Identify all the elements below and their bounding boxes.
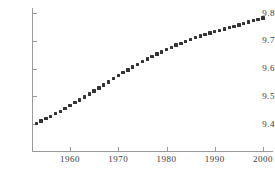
data-point — [73, 101, 76, 104]
data-point — [247, 20, 250, 23]
y-tick-mark — [33, 41, 37, 42]
data-point — [121, 71, 124, 74]
data-point — [223, 27, 226, 30]
data-point — [131, 65, 134, 68]
data-point — [102, 83, 105, 86]
data-point — [112, 77, 115, 80]
data-point — [261, 16, 264, 19]
x-tick-mark — [167, 147, 168, 151]
y-tick-mark — [33, 69, 37, 70]
data-point — [44, 117, 47, 120]
x-tick-label: 1970 — [98, 155, 138, 164]
data-point — [242, 22, 245, 25]
x-tick-label: 1980 — [147, 155, 187, 164]
x-tick-label: 1960 — [50, 155, 90, 164]
data-point — [92, 89, 95, 92]
data-point — [218, 29, 221, 32]
data-point — [194, 36, 197, 39]
data-point — [141, 60, 144, 63]
data-point — [174, 43, 177, 46]
x-tick-mark — [263, 147, 264, 151]
data-point — [155, 52, 158, 55]
data-point — [160, 50, 163, 53]
data-point — [146, 57, 149, 60]
x-tick-label: 1990 — [195, 155, 235, 164]
data-point — [88, 92, 91, 95]
y-tick-label: 9.5 — [247, 92, 275, 101]
data-point — [68, 104, 71, 107]
data-point — [136, 63, 139, 66]
data-point — [199, 34, 202, 37]
data-point — [179, 42, 182, 45]
x-axis-line — [32, 151, 273, 152]
data-point — [59, 110, 62, 113]
data-point — [228, 26, 231, 29]
x-tick-label: 2000 — [243, 155, 275, 164]
y-tick-label: 9.6 — [247, 64, 275, 73]
data-point — [189, 38, 192, 41]
data-point — [54, 112, 57, 115]
x-tick-mark — [118, 147, 119, 151]
data-point — [256, 18, 259, 21]
y-tick-mark — [33, 96, 37, 97]
y-tick-label: 9.7 — [247, 36, 275, 45]
scatter-chart: 9.49.59.69.79.8 19601970198019902000 — [0, 0, 275, 175]
data-point — [39, 119, 42, 122]
data-point — [232, 25, 235, 28]
y-axis-line — [32, 8, 33, 152]
data-point — [150, 55, 153, 58]
data-point — [252, 19, 255, 22]
data-point — [126, 68, 129, 71]
data-point — [170, 46, 173, 49]
data-point — [63, 107, 66, 110]
data-point — [78, 98, 81, 101]
x-tick-mark — [215, 147, 216, 151]
data-point — [165, 48, 168, 51]
data-point — [35, 122, 38, 125]
data-point — [237, 23, 240, 26]
y-tick-label: 9.4 — [247, 120, 275, 129]
data-point — [83, 95, 86, 98]
data-point — [117, 74, 120, 77]
data-point — [97, 86, 100, 89]
data-point — [184, 40, 187, 43]
data-point — [49, 115, 52, 118]
data-point — [107, 80, 110, 83]
data-point — [203, 33, 206, 36]
y-tick-mark — [33, 13, 37, 14]
x-tick-mark — [70, 147, 71, 151]
plot-area: 9.49.59.69.79.8 19601970198019902000 — [0, 0, 275, 175]
data-point — [213, 30, 216, 33]
data-point — [208, 31, 211, 34]
